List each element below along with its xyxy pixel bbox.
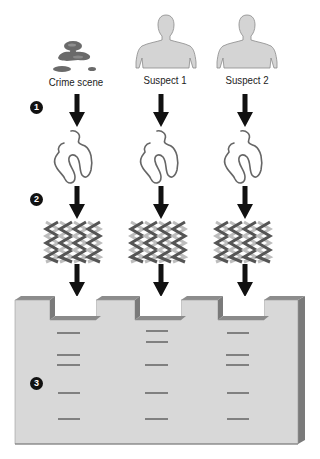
arrow-down-icon <box>237 186 253 219</box>
electrophoresis-gel <box>15 296 305 444</box>
blood-stain-icon <box>53 41 96 72</box>
extracted-dna-icon <box>140 131 177 183</box>
step-3-marker-overlay: 3 <box>30 377 43 390</box>
arrow-down-icon <box>153 94 169 127</box>
arrow-down-icon <box>69 264 85 297</box>
extracted-dna-icon <box>224 131 261 183</box>
arrow-down-icon <box>69 186 85 219</box>
arrow-down-icon <box>153 264 169 297</box>
arrow-down-icon <box>153 186 169 219</box>
dna-fragments-icon <box>46 222 100 262</box>
suspect-1-icon <box>136 15 196 68</box>
extracted-dna-icon <box>54 131 91 183</box>
suspect-2-icon <box>217 15 277 68</box>
arrow-down-icon <box>237 264 253 297</box>
dna-fragments-icon <box>131 222 185 262</box>
dna-fragments-icon <box>216 222 270 262</box>
arrow-down-icon <box>237 94 253 127</box>
arrow-down-icon <box>69 94 85 127</box>
diagram-canvas <box>0 0 320 459</box>
